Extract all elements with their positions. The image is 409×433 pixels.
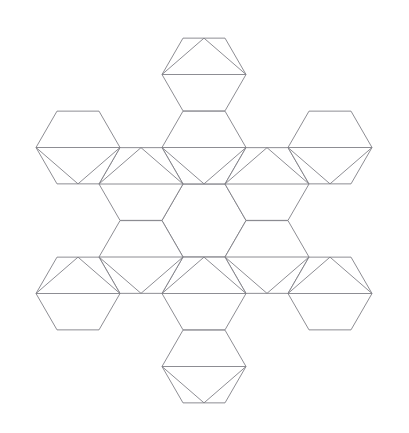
hexagon-net-diagram: Hexagonal snowflake net	[0, 0, 409, 433]
figure-root: Hexagonal snowflake net	[0, 0, 409, 433]
